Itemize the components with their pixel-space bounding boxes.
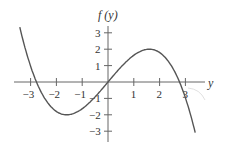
x-axis-ticks: −3−2−1123: [23, 78, 189, 100]
y-tick-label: −2: [89, 109, 101, 121]
y-tick-label: −3: [89, 125, 101, 137]
x-tick-label: −2: [48, 88, 60, 100]
y-tick-label: 3: [95, 27, 101, 39]
y-axis-title-text: f (y): [98, 8, 118, 22]
y-tick-label: 2: [95, 43, 101, 55]
y-tick-label: 1: [95, 60, 101, 72]
x-tick-label: 2: [157, 88, 163, 100]
x-tick-label: −3: [23, 88, 35, 100]
function-graph: −3−2−1123 321−1−2−3 f (y) y: [0, 0, 227, 150]
x-tick-label: 1: [131, 88, 137, 100]
axes: [14, 26, 205, 142]
x-axis-title: y: [207, 76, 214, 90]
y-axis-title: f (y): [98, 8, 118, 22]
faint-scan-artifact: [188, 88, 205, 100]
x-tick-label: −1: [74, 88, 86, 100]
y-tick-label: −1: [89, 92, 101, 104]
